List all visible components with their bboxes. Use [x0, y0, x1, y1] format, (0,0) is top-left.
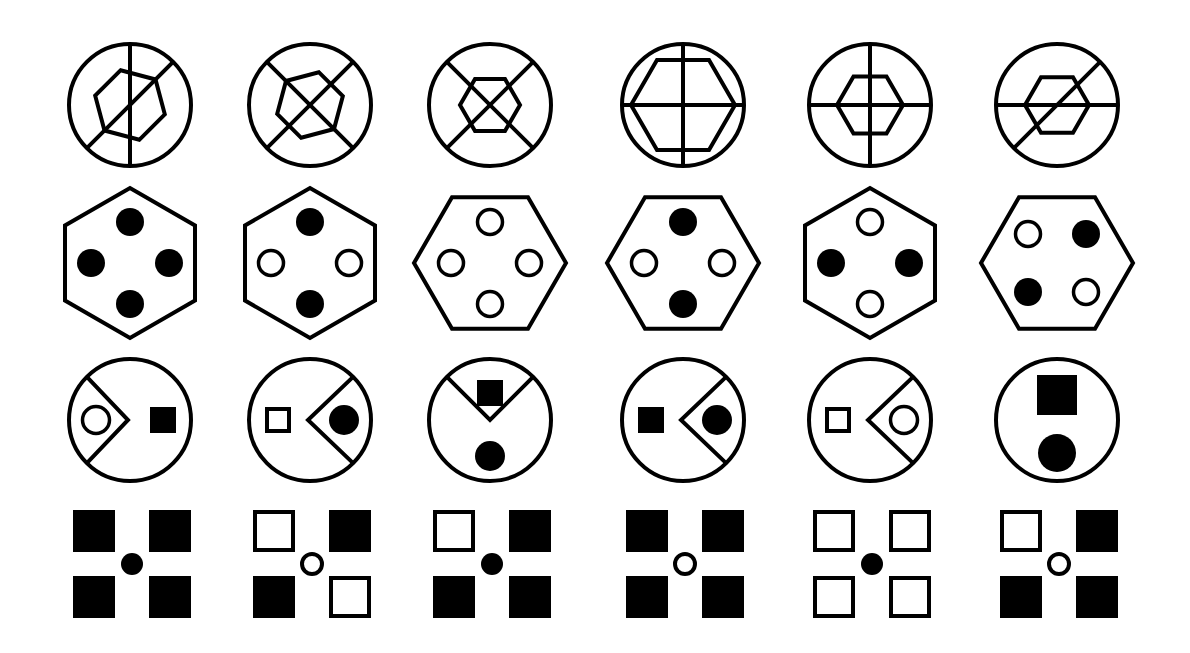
row-1: [69, 44, 1118, 166]
row-2: [65, 188, 1133, 338]
filled-square-icon: [702, 510, 744, 552]
filled-square-icon: [1000, 576, 1042, 618]
hollow-dot-icon: [439, 251, 464, 276]
hollow-dot-icon: [710, 251, 735, 276]
filled-dot-icon: [296, 208, 324, 236]
filled-dot-icon: [116, 290, 144, 318]
center-filled-dot-icon: [861, 553, 883, 575]
filled-dot-icon: [329, 405, 359, 435]
figure-canvas: [0, 0, 1190, 653]
figure-r2-c1: [65, 188, 195, 338]
filled-dot-icon: [895, 249, 923, 277]
hollow-square-icon: [255, 512, 293, 550]
filled-square-icon: [626, 576, 668, 618]
hollow-dot-icon: [858, 292, 883, 317]
filled-dot-icon: [116, 208, 144, 236]
figure-r2-c5: [805, 188, 935, 338]
center-filled-dot-icon: [121, 553, 143, 575]
hollow-dot-icon: [858, 210, 883, 235]
filled-square-icon: [73, 510, 115, 552]
filled-square-icon: [150, 407, 176, 433]
filled-square-icon: [509, 510, 551, 552]
filled-dot-icon: [669, 208, 697, 236]
filled-square-icon: [433, 576, 475, 618]
filled-square-icon: [149, 576, 191, 618]
hollow-dot-icon: [259, 251, 284, 276]
figure-r3-c3: [429, 359, 551, 481]
figure-r3-c5: [809, 359, 931, 481]
filled-dot-icon: [155, 249, 183, 277]
filled-square-icon: [1076, 510, 1118, 552]
center-hollow-dot-icon: [675, 554, 695, 574]
filled-dot-icon: [1072, 220, 1100, 248]
filled-square-icon: [253, 576, 295, 618]
figure-r4-c6: [1000, 510, 1118, 618]
filled-dot-icon: [475, 441, 505, 471]
hollow-square-icon: [827, 409, 849, 431]
hollow-square-icon: [891, 578, 929, 616]
filled-square-icon: [149, 510, 191, 552]
filled-dot-icon: [1014, 278, 1042, 306]
row-4: [73, 510, 1118, 618]
figure-r1-c5: [809, 44, 931, 166]
hollow-square-icon: [815, 578, 853, 616]
filled-dot-icon: [702, 405, 732, 435]
figure-r1-c1: [69, 44, 191, 166]
hollow-dot-icon: [632, 251, 657, 276]
puzzle-grid: [0, 0, 1190, 653]
filled-square-icon: [509, 576, 551, 618]
filled-square-icon: [477, 380, 503, 406]
figure-r1-c2: [249, 44, 371, 166]
hollow-dot-icon: [891, 407, 918, 434]
filled-square-icon: [1076, 576, 1118, 618]
figure-r1-c3: [429, 44, 551, 166]
filled-dot-icon: [296, 290, 324, 318]
figure-r2-c4: [607, 197, 759, 329]
hollow-square-icon: [331, 578, 369, 616]
center-hollow-dot-icon: [302, 554, 322, 574]
figure-r3-c6: [996, 359, 1118, 481]
hollow-dot-icon: [1016, 222, 1041, 247]
hollow-dot-icon: [478, 210, 503, 235]
filled-dot-icon: [77, 249, 105, 277]
center-hollow-dot-icon: [1049, 554, 1069, 574]
figure-r4-c1: [73, 510, 191, 618]
hollow-square-icon: [891, 512, 929, 550]
figure-r3-c4: [622, 359, 744, 481]
filled-square-icon: [626, 510, 668, 552]
figure-r3-c2: [249, 359, 371, 481]
hollow-square-icon: [267, 409, 289, 431]
filled-square-icon: [702, 576, 744, 618]
figure-r1-c6: [996, 44, 1118, 166]
center-filled-dot-icon: [481, 553, 503, 575]
filled-square-icon: [1037, 375, 1077, 415]
filled-dot-icon: [817, 249, 845, 277]
figure-r4-c4: [626, 510, 744, 618]
figure-r3-c1: [69, 359, 191, 481]
hollow-square-icon: [435, 512, 473, 550]
figure-r2-c3: [414, 197, 566, 329]
figure-r4-c3: [433, 510, 551, 618]
figure-r4-c5: [815, 512, 929, 616]
figure-r4-c2: [253, 510, 371, 618]
figure-r2-c2: [245, 188, 375, 338]
filled-dot-icon: [1038, 434, 1076, 472]
hollow-dot-icon: [517, 251, 542, 276]
hollow-square-icon: [815, 512, 853, 550]
figure-r1-c4: [622, 44, 744, 166]
row-3: [69, 359, 1118, 481]
hexagon-frame: [981, 197, 1133, 329]
filled-dot-icon: [669, 290, 697, 318]
hollow-square-icon: [1002, 512, 1040, 550]
filled-square-icon: [73, 576, 115, 618]
figure-r2-c6: [981, 197, 1133, 329]
hollow-dot-icon: [337, 251, 362, 276]
filled-square-icon: [329, 510, 371, 552]
hollow-dot-icon: [83, 407, 110, 434]
hollow-dot-icon: [1074, 280, 1099, 305]
filled-square-icon: [638, 407, 664, 433]
hollow-dot-icon: [478, 292, 503, 317]
